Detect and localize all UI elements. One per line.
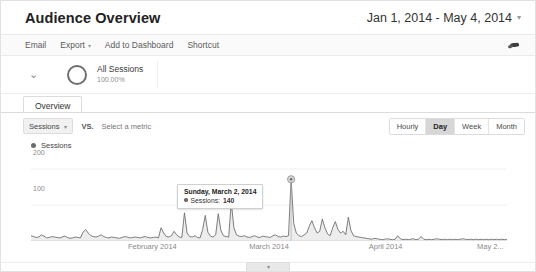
x-axis-tick-march: March 2014 (249, 242, 289, 251)
share-icon-tail (508, 44, 514, 48)
compare-metric-selector[interactable]: Select a metric (102, 122, 152, 131)
share-icon[interactable] (508, 41, 521, 50)
granularity-month[interactable]: Month (489, 119, 524, 134)
chevron-down-icon: ▾ (267, 264, 270, 270)
legend-label: Sessions (41, 141, 71, 150)
segment-percent: 100.00% (97, 76, 143, 85)
granularity-group: Hourly Day Week Month (389, 118, 525, 135)
vs-label: VS. (81, 122, 93, 131)
collapse-panel-handle[interactable]: ▾ (246, 262, 290, 271)
email-button[interactable]: Email (25, 40, 46, 50)
chart-plot-area[interactable] (1, 151, 535, 241)
chart-svg (1, 151, 536, 241)
shortcut-button[interactable]: Shortcut (187, 40, 219, 50)
series-area-sessions (31, 179, 507, 241)
chart-tooltip: Sunday, March 2, 2014 Sessions: 140 (177, 184, 263, 209)
email-label: Email (25, 40, 46, 50)
chevron-down-icon: ▾ (88, 42, 91, 49)
sessions-chart: Sessions 200 100 February 2014 March 201… (1, 139, 535, 259)
segment-name: All Sessions (97, 64, 143, 75)
tooltip-metric-row: Sessions: 140 (184, 197, 256, 204)
highlight-point-center (290, 178, 293, 181)
report-toolbar: Email Export ▾ Add to Dashboard Shortcut (1, 34, 535, 56)
export-label: Export (60, 40, 85, 50)
legend-dot-icon (31, 143, 36, 148)
granularity-day[interactable]: Day (426, 119, 455, 134)
segment-collapse-chevron-icon[interactable]: ⌄ (23, 69, 45, 80)
metric-selector[interactable]: Sessions ▾ (23, 118, 73, 134)
add-to-dashboard-button[interactable]: Add to Dashboard (105, 40, 174, 50)
chevron-down-icon: ▾ (517, 14, 521, 22)
x-axis-tick-may: May 2... (477, 242, 504, 251)
x-axis-tick-february: February 2014 (128, 242, 177, 251)
metric-selector-label: Sessions (29, 122, 59, 131)
shortcut-label: Shortcut (187, 40, 219, 50)
segment-bar: ⌄ All Sessions 100.00% (1, 56, 535, 94)
export-button[interactable]: Export ▾ (60, 40, 91, 50)
tooltip-metric-value: 140 (223, 197, 234, 204)
granularity-hourly[interactable]: Hourly (390, 119, 427, 134)
analytics-report: Audience Overview Jan 1, 2014 - May 4, 2… (0, 0, 536, 272)
tooltip-dot-icon (184, 198, 188, 202)
segment-info[interactable]: All Sessions 100.00% (97, 64, 143, 84)
chevron-down-icon: ▾ (64, 123, 67, 130)
date-range-label: Jan 1, 2014 - May 4, 2014 (367, 11, 512, 25)
granularity-week[interactable]: Week (455, 119, 489, 134)
report-header: Audience Overview Jan 1, 2014 - May 4, 2… (1, 1, 535, 34)
add-segment-slot[interactable] (157, 60, 490, 88)
tooltip-metric-label: Sessions: (191, 197, 220, 204)
date-range-picker[interactable]: Jan 1, 2014 - May 4, 2014 ▾ (367, 11, 521, 25)
metric-bar: Sessions ▾ VS. Select a metric Hourly Da… (1, 113, 535, 139)
donut-ring-icon (67, 65, 87, 85)
series-line-sessions (31, 179, 507, 239)
add-to-dashboard-label: Add to Dashboard (105, 40, 174, 50)
tab-overview-label: Overview (35, 101, 70, 111)
report-tabs: Overview (1, 94, 535, 113)
x-axis-tick-april: April 2014 (369, 242, 403, 251)
tooltip-date: Sunday, March 2, 2014 (184, 188, 256, 195)
page-title: Audience Overview (25, 10, 160, 26)
